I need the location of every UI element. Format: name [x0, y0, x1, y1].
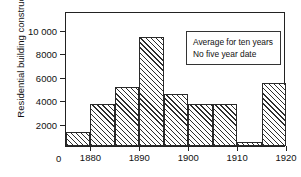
- x-tick-label: 1910: [227, 152, 248, 163]
- annotation-line-1: Average for ten years: [193, 36, 273, 48]
- bar: [139, 37, 163, 146]
- x-tick-label: 1920: [275, 152, 296, 163]
- annotation-box: Average for ten years No five year date: [186, 31, 281, 65]
- x-tick-mark: [139, 146, 140, 151]
- plot-area: 200040006000800010 000 18801890190019101…: [65, 12, 285, 147]
- bar: [115, 87, 139, 146]
- y-tick-label: 8000: [36, 49, 57, 60]
- x-tick-mark: [286, 146, 287, 151]
- annotation-line-2: No five year date: [193, 48, 273, 60]
- bar: [66, 132, 90, 146]
- y-tick-mark: [60, 101, 66, 102]
- x-tick-mark: [90, 146, 91, 151]
- y-tick-mark: [60, 31, 66, 32]
- y-tick-label: 6000: [36, 72, 57, 83]
- y-axis-label: Residential building construction: [15, 0, 26, 130]
- bar: [213, 104, 237, 146]
- y-tick-mark: [60, 78, 66, 79]
- y-tick-mark: [60, 125, 66, 126]
- chart-figure: Residential building construction 0 2000…: [0, 0, 301, 177]
- bar: [188, 104, 212, 146]
- bar: [164, 94, 188, 146]
- x-tick-label: 1880: [80, 152, 101, 163]
- x-tick-mark: [188, 146, 189, 151]
- bar: [237, 142, 261, 146]
- x-tick-label: 1900: [178, 152, 199, 163]
- x-axis-origin-label: 0: [56, 153, 61, 164]
- y-tick-label: 2000: [36, 119, 57, 130]
- x-tick-mark: [237, 146, 238, 151]
- x-tick-label: 1890: [129, 152, 150, 163]
- y-tick-label: 4000: [36, 96, 57, 107]
- y-tick-label: 10 000: [28, 25, 57, 36]
- y-tick-mark: [60, 54, 66, 55]
- bar: [262, 83, 286, 146]
- bar: [90, 104, 114, 146]
